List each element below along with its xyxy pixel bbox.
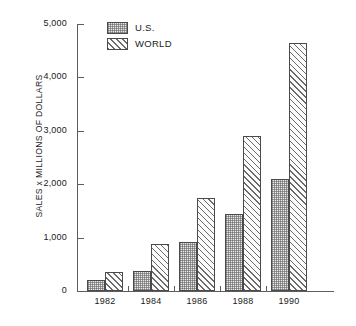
- y-axis-tick-label: 3,000: [23, 125, 67, 135]
- bar-1990-us: [271, 179, 289, 291]
- legend-swatch-us: [107, 22, 128, 34]
- x-axis-tick-labels: 19821984198619881990: [77, 296, 356, 314]
- y-axis-tick-label: 4,000: [23, 71, 67, 81]
- legend-label: WORLD: [135, 38, 172, 49]
- y-axis-tick-mark: [78, 24, 84, 25]
- x-axis-line: [77, 291, 334, 292]
- x-axis-tick-label: 1982: [82, 296, 128, 306]
- bar-1986-world: [197, 198, 215, 291]
- bar-1982-us: [87, 280, 105, 291]
- x-axis-tick-label: 1984: [128, 296, 174, 306]
- y-axis-tick-label: 1,000: [23, 232, 67, 242]
- plot-area: [77, 24, 345, 292]
- y-axis-tick-mark: [78, 238, 84, 239]
- legend-label: U.S.: [135, 22, 155, 33]
- y-axis-tick-mark: [78, 131, 84, 132]
- x-axis-group-separator: [128, 286, 129, 291]
- bar-chart-figure: SALES x MILLIONS OF DOLLARS 01,0002,0003…: [0, 0, 356, 326]
- x-axis-tick-label: 1986: [174, 296, 220, 306]
- x-axis-group-separator: [174, 286, 175, 291]
- legend-item: WORLD: [107, 37, 172, 50]
- y-axis-tick-mark: [78, 77, 84, 78]
- bar-1984-us: [133, 271, 151, 291]
- bar-1982-world: [105, 272, 123, 291]
- bar-1986-us: [179, 242, 197, 291]
- y-axis-tick-label: 2,000: [23, 178, 67, 188]
- y-axis-tick-labels: 01,0002,0003,0004,0005,000: [23, 0, 67, 326]
- y-axis-tick-label: 5,000: [23, 18, 67, 28]
- bar-1988-world: [243, 136, 261, 291]
- legend-swatch-world: [107, 38, 128, 50]
- bar-1988-us: [225, 214, 243, 291]
- bar-1984-world: [151, 244, 169, 291]
- chart-legend: U.S.WORLD: [107, 21, 172, 50]
- y-axis-line: [77, 24, 78, 292]
- x-axis-tick-label: 1988: [220, 296, 266, 306]
- bar-1990-world: [289, 43, 307, 291]
- x-axis-tick-label: 1990: [266, 296, 312, 306]
- x-axis-group-separator: [220, 286, 221, 291]
- x-axis-group-separator: [266, 286, 267, 291]
- y-axis-tick-mark: [78, 184, 84, 185]
- y-axis-tick-label: 0: [23, 285, 67, 295]
- legend-item: U.S.: [107, 21, 172, 34]
